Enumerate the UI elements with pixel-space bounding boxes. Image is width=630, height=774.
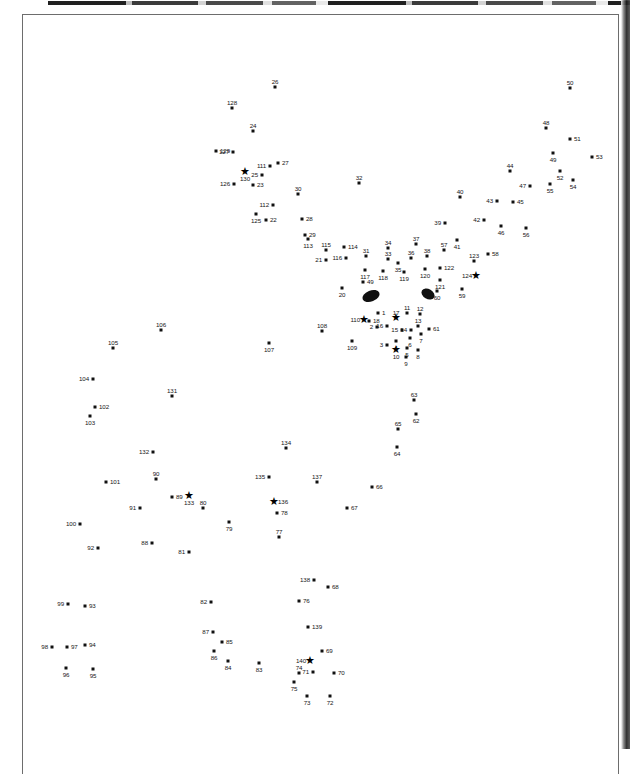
point-label: 50 bbox=[567, 80, 574, 86]
dot-marker-icon bbox=[155, 478, 158, 481]
point-label: 54 bbox=[570, 184, 577, 190]
point-label: 58 bbox=[492, 251, 499, 257]
point-label: 37 bbox=[413, 236, 420, 242]
dot-marker-icon bbox=[397, 428, 400, 431]
point-label: 42 bbox=[473, 217, 480, 223]
dot-marker-icon bbox=[89, 415, 92, 418]
point-label: 109 bbox=[347, 345, 357, 351]
dot-marker-icon bbox=[84, 605, 87, 608]
point-label: 64 bbox=[394, 451, 401, 457]
dot-marker-icon bbox=[160, 329, 163, 332]
star-marker-icon: ★ bbox=[305, 655, 315, 666]
point-label: 33 bbox=[385, 251, 392, 257]
point-label: 12 bbox=[417, 306, 424, 312]
dot-marker-icon bbox=[351, 340, 354, 343]
dot-marker-icon bbox=[213, 650, 216, 653]
dot-marker-icon bbox=[325, 259, 328, 262]
point-label: 24 bbox=[250, 123, 257, 129]
point-label: 104 bbox=[79, 376, 89, 382]
point-label: 75 bbox=[291, 686, 298, 692]
point-label: 105 bbox=[108, 340, 118, 346]
dot-marker-icon bbox=[97, 547, 100, 550]
dot-marker-icon bbox=[371, 486, 374, 489]
dot-marker-icon bbox=[333, 672, 336, 675]
dot-marker-icon bbox=[473, 260, 476, 263]
point-label: 139 bbox=[312, 624, 322, 630]
dot-marker-icon bbox=[210, 601, 213, 604]
dot-marker-icon bbox=[439, 267, 442, 270]
point-label: 44 bbox=[507, 163, 514, 169]
point-label: 51 bbox=[574, 136, 581, 142]
star-marker-icon: ★ bbox=[471, 270, 481, 281]
point-label: 136 bbox=[278, 499, 288, 505]
dot-marker-icon bbox=[559, 170, 562, 173]
dot-marker-icon bbox=[459, 196, 462, 199]
point-label: 28 bbox=[306, 216, 313, 222]
dot-marker-icon bbox=[396, 446, 399, 449]
point-label: 14 bbox=[400, 327, 407, 333]
point-label: 2 bbox=[370, 324, 373, 330]
dot-marker-icon bbox=[66, 646, 69, 649]
dot-marker-icon bbox=[345, 257, 348, 260]
dot-marker-icon bbox=[386, 325, 389, 328]
dot-marker-icon bbox=[228, 521, 231, 524]
dot-marker-icon bbox=[65, 667, 68, 670]
dot-marker-icon bbox=[406, 312, 409, 315]
dot-marker-icon bbox=[171, 496, 174, 499]
point-label: 123 bbox=[469, 253, 479, 259]
dot-marker-icon bbox=[569, 87, 572, 90]
dot-marker-icon bbox=[439, 279, 442, 282]
point-label: 69 bbox=[326, 648, 333, 654]
point-label: 94 bbox=[89, 642, 96, 648]
dot-marker-icon bbox=[341, 287, 344, 290]
point-label: 113 bbox=[303, 243, 313, 249]
point-label: 102 bbox=[99, 404, 109, 410]
point-label: 39 bbox=[434, 220, 441, 226]
point-label: 134 bbox=[281, 440, 291, 446]
point-label: 30 bbox=[295, 186, 302, 192]
dot-marker-icon bbox=[552, 152, 555, 155]
point-label: 6 bbox=[408, 342, 411, 348]
point-label: 48 bbox=[543, 120, 550, 126]
point-label: 107 bbox=[264, 347, 274, 353]
dot-marker-icon bbox=[313, 579, 316, 582]
dot-marker-icon bbox=[395, 340, 398, 343]
dot-marker-icon bbox=[79, 523, 82, 526]
point-label: 35 bbox=[395, 267, 402, 273]
point-label: 124 bbox=[462, 273, 472, 279]
dot-marker-icon bbox=[325, 249, 328, 252]
dot-marker-icon bbox=[221, 641, 224, 644]
dot-marker-icon bbox=[483, 219, 486, 222]
point-label: 111 bbox=[257, 163, 266, 169]
point-label: 108 bbox=[317, 323, 327, 329]
point-label: 92 bbox=[87, 545, 94, 551]
dot-marker-icon bbox=[139, 507, 142, 510]
point-label: 126 bbox=[220, 181, 230, 187]
point-label: 97 bbox=[71, 644, 78, 650]
point-label: 8 bbox=[416, 354, 419, 360]
dot-marker-icon bbox=[327, 586, 330, 589]
point-label: 73 bbox=[304, 700, 311, 706]
point-label: 26 bbox=[272, 79, 279, 85]
point-label: 49 bbox=[550, 157, 557, 163]
dot-marker-icon bbox=[171, 395, 174, 398]
point-label: 88 bbox=[141, 540, 148, 546]
dot-marker-icon bbox=[572, 179, 575, 182]
point-label: 138 bbox=[300, 577, 310, 583]
dot-marker-icon bbox=[321, 330, 324, 333]
point-label: 89 bbox=[176, 494, 183, 500]
point-label: 47 bbox=[519, 183, 526, 189]
point-label: 98 bbox=[41, 644, 48, 650]
dot-marker-icon bbox=[188, 551, 191, 554]
point-label: 116 bbox=[332, 255, 342, 261]
dot-marker-icon bbox=[252, 130, 255, 133]
point-label: 41 bbox=[454, 244, 461, 250]
point-label: 106 bbox=[156, 322, 166, 328]
point-label: 130 bbox=[240, 176, 250, 182]
point-label: 82 bbox=[200, 599, 207, 605]
point-label: 23 bbox=[257, 182, 264, 188]
dot-marker-icon bbox=[84, 644, 87, 647]
point-label: 17 bbox=[393, 310, 400, 316]
dot-marker-icon bbox=[512, 201, 515, 204]
dot-marker-icon bbox=[297, 193, 300, 196]
